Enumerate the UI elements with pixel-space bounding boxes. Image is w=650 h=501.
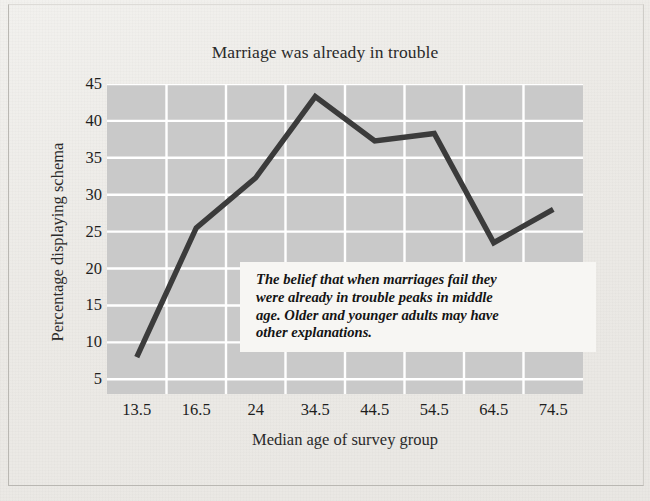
y-axis-tick-label: 25	[56, 222, 102, 242]
x-axis-tick-label: 44.5	[360, 400, 389, 420]
annotation-line-3: age. Older and younger adults may have	[256, 307, 585, 325]
x-axis-tick-label: 34.5	[301, 400, 330, 420]
x-axis-title: Median age of survey group	[107, 430, 583, 450]
x-axis-tick-label: 13.5	[122, 400, 151, 420]
chart-title: Marriage was already in trouble	[0, 42, 650, 63]
x-axis-tick-labels: 13.516.52434.544.554.564.574.5	[107, 400, 583, 424]
x-axis-tick-label: 24	[248, 400, 265, 420]
x-axis-tick-label: 74.5	[539, 400, 568, 420]
y-axis-tick-label: 30	[56, 185, 102, 205]
annotation-line-2: were already in trouble peaks in middle	[256, 289, 585, 307]
chart-page: Marriage was already in trouble Percenta…	[0, 0, 650, 501]
y-axis-tick-label: 35	[56, 148, 102, 168]
y-axis-tick-label: 45	[56, 74, 102, 94]
y-axis-tick-label: 10	[56, 332, 102, 352]
y-axis-tick-label: 15	[56, 295, 102, 315]
annotation-line-1: The belief that when marriages fail they	[256, 271, 585, 289]
y-axis-tick-label: 40	[56, 111, 102, 131]
x-axis-tick-label: 54.5	[420, 400, 449, 420]
y-axis-tick-label: 5	[56, 369, 102, 389]
x-axis-tick-label: 16.5	[182, 400, 211, 420]
annotation-callout: The belief that when marriages fail they…	[240, 262, 596, 352]
y-axis-tick-label: 20	[56, 259, 102, 279]
annotation-line-4: other explanations.	[256, 324, 585, 342]
y-axis-tick-labels: 45403530252015105	[52, 84, 102, 394]
x-axis-tick-label: 64.5	[479, 400, 508, 420]
